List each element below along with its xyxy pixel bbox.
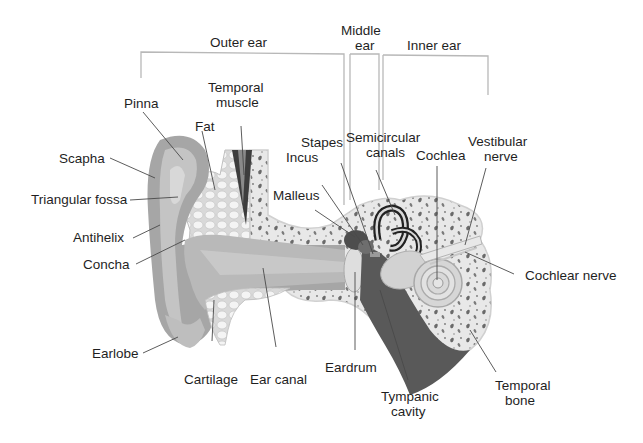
cartilage — [205, 288, 290, 345]
earlobe-label: Earlobe — [92, 346, 139, 361]
outer-ear-label: Outer ear — [210, 35, 267, 50]
middle-ear-label-line1: Middle — [341, 23, 381, 38]
eardrum-label: Eardrum — [325, 360, 377, 375]
inner-ear-label: Inner ear — [407, 38, 461, 53]
semicircular-canals-label-2: canals — [366, 145, 405, 160]
fat-label: Fat — [195, 119, 215, 134]
ear-canal-label: Ear canal — [250, 372, 307, 387]
middle-ear-label-line2: ear — [355, 38, 375, 53]
cochlea-label: Cochlea — [416, 148, 466, 163]
incus-shape — [358, 240, 374, 254]
antihelix-label: Antihelix — [73, 230, 124, 245]
vestibular-nerve-label-2: nerve — [484, 149, 518, 164]
cochlea-shape — [414, 259, 462, 307]
ear-anatomy-diagram: Outer ear Middle ear Inner ear Pinna Tem… — [0, 0, 643, 443]
stapes-shape — [370, 252, 380, 257]
temporal-muscle-label-2: muscle — [216, 95, 259, 110]
inner-ear-bracket — [383, 55, 488, 95]
semicircular-canals-label-1: Semicircular — [346, 130, 420, 145]
concha-label: Concha — [83, 257, 130, 272]
vestibular-nerve-label-1: Vestibular — [468, 134, 527, 149]
pinna-label: Pinna — [124, 96, 159, 111]
tympanic-cavity-label-1: Tympanic — [381, 389, 439, 404]
middle-ear-bracket — [350, 54, 379, 200]
temporal-bone-label-2: bone — [505, 393, 535, 408]
tympanic-cavity-label-2: cavity — [391, 404, 426, 419]
cochlear-nerve-label: Cochlear nerve — [525, 268, 617, 283]
malleus-label: Malleus — [273, 188, 320, 203]
incus-label: Incus — [286, 150, 318, 165]
ear-illustration — [0, 0, 643, 443]
triangular-fossa-label: Triangular fossa — [31, 192, 127, 207]
temporal-bone-label-1: Temporal — [495, 378, 551, 393]
stapes-label: Stapes — [301, 135, 343, 150]
scapha-label: Scapha — [59, 151, 105, 166]
cartilage-label: Cartilage — [184, 372, 238, 387]
temporal-muscle-label-1: Temporal — [208, 80, 264, 95]
